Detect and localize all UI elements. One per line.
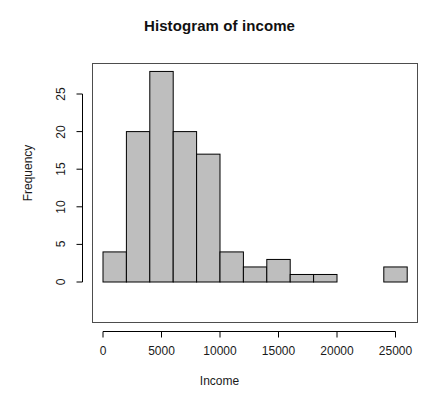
y-tick-label: 25	[50, 86, 72, 102]
x-tick-label: 15000	[262, 344, 295, 358]
histogram-bar	[103, 252, 126, 282]
x-tick-label: 0	[100, 344, 107, 358]
histogram-bar	[243, 267, 266, 282]
y-axis-label-wrapper: Frequency	[18, 0, 38, 345]
y-tick-label: 10	[50, 199, 72, 215]
histogram-bar	[126, 132, 149, 282]
histogram-bar	[384, 267, 407, 282]
histogram-figure: Histogram of income 05000100001500020000…	[0, 0, 439, 420]
histogram-bar	[290, 274, 313, 282]
bars-layer	[103, 71, 407, 282]
x-tick-label: 5000	[148, 344, 175, 358]
ticks-layer	[77, 94, 396, 338]
y-tick-label: 0	[50, 274, 72, 290]
histogram-bar	[150, 71, 173, 282]
x-tick-label: 10000	[203, 344, 236, 358]
histogram-bar	[267, 259, 290, 282]
histogram-bar	[173, 132, 196, 282]
x-axis-label: Income	[0, 374, 439, 388]
histogram-bar	[197, 154, 220, 282]
histogram-bar	[314, 274, 337, 282]
x-tick-label: 25000	[379, 344, 412, 358]
y-tick-label: 15	[50, 161, 72, 177]
histogram-bar	[220, 252, 243, 282]
x-tick-label: 20000	[320, 344, 353, 358]
y-tick-label: 20	[50, 124, 72, 140]
y-axis-label: Frequency	[21, 144, 35, 201]
y-tick-label: 5	[50, 236, 72, 252]
